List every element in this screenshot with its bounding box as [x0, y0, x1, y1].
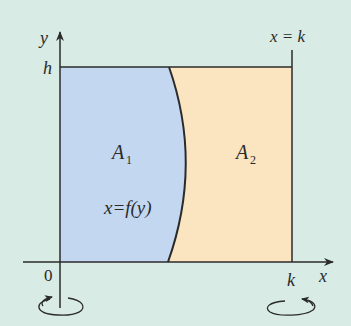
svg-text:A: A [110, 141, 125, 163]
h-label: h [43, 58, 52, 78]
k-label: k [287, 270, 296, 290]
x-axis-label: x [318, 266, 327, 286]
region-a1 [60, 67, 186, 262]
k-line-label: x = k [269, 27, 306, 46]
svg-text:A: A [234, 141, 249, 163]
rotation-icon-k-line [267, 299, 314, 315]
origin-label: 0 [44, 266, 53, 285]
svg-text:2: 2 [250, 153, 256, 167]
diagram: y h x = k 0 k x A 1 A 2 x=f(y) [0, 0, 351, 326]
rotation-icon-y-axis [39, 297, 83, 315]
curve-label: x=f(y) [103, 197, 152, 219]
svg-text:1: 1 [126, 153, 132, 167]
y-axis-label: y [38, 28, 48, 48]
